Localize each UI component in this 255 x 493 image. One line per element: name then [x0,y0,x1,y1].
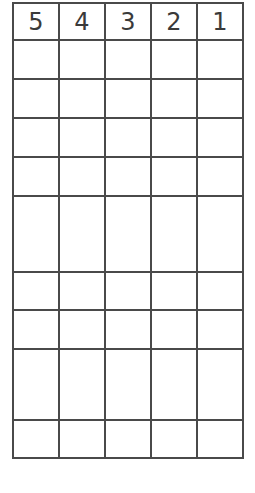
grid-row [13,157,243,196]
header-cell-5: 5 [13,3,59,40]
grid-row [13,349,243,420]
header-cell-1: 1 [197,3,243,40]
grid-cell [197,272,243,310]
grid-cell [59,420,105,458]
grid-cell [105,420,151,458]
grid-cell [13,196,59,272]
grid-row [13,40,243,79]
grid-cell [151,272,197,310]
grid-cell [105,79,151,118]
grid-cell [197,196,243,272]
grid-cell [105,272,151,310]
grid-cell [13,349,59,420]
grid-cell [59,310,105,349]
grid-cell [59,79,105,118]
grid-cell [197,118,243,157]
grid-cell [197,420,243,458]
grid-row [13,118,243,157]
grid-cell [197,79,243,118]
grid-cell [105,196,151,272]
grid-cell [105,349,151,420]
grid-cell [105,310,151,349]
grid-cell [13,40,59,79]
grid-cell [13,157,59,196]
grid-cell [59,349,105,420]
grid-row [13,310,243,349]
grid-cell [13,118,59,157]
grid-cell [13,79,59,118]
header-cell-2: 2 [151,3,197,40]
grid-cell [151,40,197,79]
grid-cell [151,118,197,157]
grid-cell [13,310,59,349]
grid-cell [105,118,151,157]
grid-cell [151,310,197,349]
grid-row [13,420,243,458]
grid-cell [13,272,59,310]
grid-cell [151,196,197,272]
grid-cell [59,157,105,196]
grid-cell [59,40,105,79]
number-grid: 5 4 3 2 1 [12,2,244,459]
grid-cell [13,420,59,458]
grid-cell [59,118,105,157]
grid-cell [197,349,243,420]
header-row: 5 4 3 2 1 [13,3,243,40]
grid-cell [59,196,105,272]
grid-row [13,196,243,272]
grid-cell [151,157,197,196]
grid-row [13,272,243,310]
grid-cell [105,40,151,79]
grid-cell [151,420,197,458]
grid-cell [59,272,105,310]
header-cell-4: 4 [59,3,105,40]
header-cell-3: 3 [105,3,151,40]
grid-cell [197,310,243,349]
grid-cell [151,79,197,118]
grid-cell [197,40,243,79]
grid-row [13,79,243,118]
grid-cell [105,157,151,196]
grid-cell [197,157,243,196]
grid-cell [151,349,197,420]
